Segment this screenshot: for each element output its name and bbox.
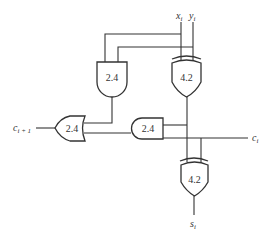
wire-and-top-to-or	[84, 96, 112, 123]
or-gate-delay: 2.4	[66, 123, 79, 134]
label-sum-out: si	[190, 218, 196, 231]
xor-gate-bottom-delay: 4.2	[188, 174, 201, 185]
xor-gate-top-delay: 4.2	[180, 72, 193, 83]
or-gate-carry: 2.4	[55, 116, 85, 141]
and-gate-bottom-delay: 2.4	[142, 123, 155, 134]
label-x-input: xi	[175, 10, 182, 23]
label-y-input: yi	[188, 10, 195, 23]
xor-gate-top: 4.2	[172, 56, 201, 97]
label-carry-out: ci + 1	[13, 122, 31, 135]
circuit-diagram: 2.4 4.2 2.4 2.4 4.2 xi yi ci ci + 1 si	[0, 0, 270, 241]
and-gate-top-delay: 2.4	[106, 72, 119, 83]
xor-gate-bottom: 4.2	[180, 158, 208, 196]
label-carry-in: ci	[252, 132, 258, 145]
and-gate-top: 2.4	[97, 62, 127, 97]
wire-x-to-and	[105, 34, 181, 62]
and-gate-bottom: 2.4	[132, 118, 164, 139]
